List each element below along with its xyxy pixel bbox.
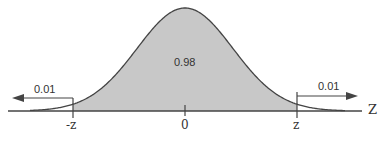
normal-curve-diagram: 0.98 0.01 0.01 -z 0 z Z xyxy=(0,0,385,151)
right-arrow-head xyxy=(346,92,358,100)
left-tail-label: 0.01 xyxy=(34,83,55,95)
left-arrow-head xyxy=(12,94,24,102)
tick-label-zero: 0 xyxy=(181,118,189,132)
curve-graphic xyxy=(0,0,385,151)
right-tail-label: 0.01 xyxy=(318,80,339,92)
axis-label-z: Z xyxy=(368,102,377,117)
center-area-label: 0.98 xyxy=(174,56,195,68)
tick-label-pos-z: z xyxy=(293,118,299,132)
tick-label-neg-z: -z xyxy=(66,118,76,132)
